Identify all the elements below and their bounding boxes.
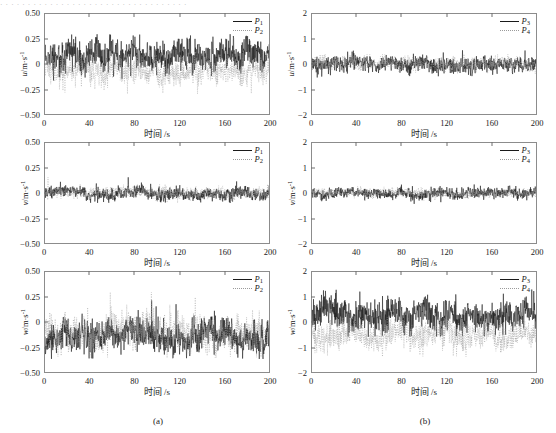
y-tick-label: 2 xyxy=(303,8,307,18)
legend-swatch-solid-icon xyxy=(500,150,519,151)
y-tick-label: −2 xyxy=(298,239,307,249)
y-axis-label: u/m·s-1 xyxy=(286,52,297,77)
x-tick-label: 120 xyxy=(440,118,453,128)
x-tick-mark xyxy=(224,13,225,17)
plot-panel-b-w: 210−1−204080120160200w/m·s-1时间 /sP3P4 xyxy=(311,271,537,373)
plot-panel-b-u: 210−1−204080120160200u/m·s-1时间 /sP3P4 xyxy=(311,13,537,115)
y-tick-label: 0.50 xyxy=(25,137,40,147)
x-tick-label: 200 xyxy=(531,118,544,128)
y-tick-mark xyxy=(311,167,315,168)
y-tick-mark xyxy=(44,167,48,168)
x-tick-label: 120 xyxy=(440,247,453,257)
x-tick-mark xyxy=(134,271,135,275)
x-tick-label: 80 xyxy=(130,247,139,257)
y-tick-mark xyxy=(44,322,48,323)
y-tick-label: 0.50 xyxy=(25,8,40,18)
series-line-P2 xyxy=(45,292,269,358)
x-tick-mark xyxy=(179,271,180,275)
x-tick-label: 0 xyxy=(42,247,46,257)
legend-label: P4 xyxy=(522,25,530,35)
plot-panel-a-u: 0.500.250−0.25−0.5004080120160200u/m·s-1… xyxy=(44,13,270,115)
y-axis-label: u/m·s-1 xyxy=(19,52,30,77)
y-axis-label: w/m·s-1 xyxy=(286,309,297,335)
y-tick-label: −1 xyxy=(298,343,307,353)
y-tick-label: −0.25 xyxy=(20,214,40,224)
y-axis-label: v/m·s-1 xyxy=(19,181,30,205)
x-tick-label: 160 xyxy=(218,376,231,386)
legend-swatch-solid-icon xyxy=(500,279,519,280)
legend-item-P2: P2 xyxy=(233,26,263,35)
y-tick-mark xyxy=(311,64,315,65)
legend-swatch-dotted-icon xyxy=(233,288,252,289)
legend: P3P4 xyxy=(500,275,530,293)
x-tick-label: 80 xyxy=(397,376,406,386)
y-tick-mark xyxy=(44,296,48,297)
x-tick-mark xyxy=(134,13,135,17)
series-line-P1 xyxy=(45,300,269,359)
x-tick-mark xyxy=(89,13,90,17)
x-tick-label: 160 xyxy=(218,118,231,128)
x-tick-mark xyxy=(401,13,402,17)
x-tick-label: 40 xyxy=(352,247,361,257)
x-tick-label: 200 xyxy=(531,376,544,386)
legend-swatch-solid-icon xyxy=(233,21,252,22)
y-tick-label: 0.25 xyxy=(25,34,40,44)
y-tick-label: 1 xyxy=(303,34,307,44)
y-tick-mark xyxy=(44,64,48,65)
x-tick-label: 40 xyxy=(352,376,361,386)
x-tick-mark xyxy=(356,271,357,275)
x-tick-label: 160 xyxy=(485,247,498,257)
x-tick-mark xyxy=(224,271,225,275)
x-tick-mark xyxy=(179,13,180,17)
legend-swatch-solid-icon xyxy=(233,150,252,151)
y-tick-label: 2 xyxy=(303,137,307,147)
x-tick-label: 40 xyxy=(85,376,94,386)
y-tick-label: 0 xyxy=(303,188,307,198)
x-tick-label: 0 xyxy=(309,118,313,128)
y-tick-label: −2 xyxy=(298,110,307,120)
series-line-P4 xyxy=(312,54,536,74)
y-axis-label: w/m·s-1 xyxy=(19,309,30,335)
y-tick-mark xyxy=(311,322,315,323)
x-tick-mark xyxy=(179,142,180,146)
legend-swatch-dotted-icon xyxy=(233,159,252,160)
x-tick-label: 40 xyxy=(352,118,361,128)
x-axis-label: 时间 /s xyxy=(411,256,437,269)
y-tick-label: 0 xyxy=(36,59,40,69)
x-tick-mark xyxy=(446,142,447,146)
x-tick-label: 160 xyxy=(485,376,498,386)
x-tick-label: 80 xyxy=(130,376,139,386)
legend-swatch-dotted-icon xyxy=(500,30,519,31)
y-tick-mark xyxy=(44,218,48,219)
x-tick-label: 0 xyxy=(309,376,313,386)
x-tick-mark xyxy=(89,271,90,275)
legend-swatch-dotted-icon xyxy=(233,30,252,31)
x-tick-mark xyxy=(356,13,357,17)
y-tick-label: 0 xyxy=(303,317,307,327)
x-tick-label: 0 xyxy=(42,376,46,386)
legend: P3P4 xyxy=(500,17,530,35)
y-tick-mark xyxy=(44,89,48,90)
legend: P3P4 xyxy=(500,146,530,164)
x-tick-mark xyxy=(356,142,357,146)
x-tick-mark xyxy=(491,142,492,146)
x-tick-mark xyxy=(446,271,447,275)
y-axis-label: v/m·s-1 xyxy=(286,181,297,205)
x-tick-mark xyxy=(224,142,225,146)
x-tick-label: 200 xyxy=(264,376,277,386)
y-tick-label: −1 xyxy=(298,214,307,224)
y-tick-label: −0.50 xyxy=(20,239,40,249)
legend-swatch-dotted-icon xyxy=(500,159,519,160)
y-tick-mark xyxy=(44,347,48,348)
y-tick-mark xyxy=(44,193,48,194)
y-tick-label: 1 xyxy=(303,292,307,302)
x-tick-label: 80 xyxy=(397,247,406,257)
legend-item-P2: P2 xyxy=(233,284,263,293)
x-axis-label: 时间 /s xyxy=(144,256,170,269)
legend-swatch-solid-icon xyxy=(500,21,519,22)
y-tick-label: 2 xyxy=(303,266,307,276)
y-tick-label: −0.25 xyxy=(20,343,40,353)
legend-item-P4: P4 xyxy=(500,284,530,293)
x-tick-label: 120 xyxy=(440,376,453,386)
x-tick-mark xyxy=(491,271,492,275)
